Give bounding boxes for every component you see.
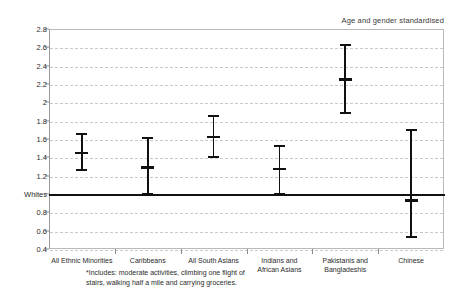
y-axis-tick-label: 2 — [43, 98, 47, 107]
error-bar-lower-cap — [406, 236, 417, 238]
x-axis-category-label: Pakistanis and Bangladeshis — [322, 256, 368, 274]
x-axis-category-label: Indians and African Asians — [257, 256, 301, 274]
gridline — [50, 177, 443, 178]
chart-title: Age and gender standardised — [342, 16, 444, 25]
gridline — [50, 48, 443, 49]
error-bar-upper-cap — [76, 133, 87, 135]
error-bar-point-marker — [405, 199, 418, 201]
gridline — [50, 232, 443, 233]
y-axis-tick-label: 0.6 — [37, 226, 47, 235]
x-axis-tick-mark — [115, 249, 116, 254]
y-axis-tick-label: 1.2 — [37, 171, 47, 180]
gridline — [50, 140, 443, 141]
y-axis-tick-label: 0.4 — [37, 245, 47, 254]
error-bar-lower-cap — [208, 156, 219, 158]
gridline — [50, 103, 443, 104]
x-axis-tick-mark — [312, 249, 313, 254]
y-axis-tick-label: 0.8 — [37, 208, 47, 217]
y-axis-tick-label: 2.2 — [37, 80, 47, 89]
whites-reference-line — [49, 194, 445, 196]
error-bar-point-marker — [75, 152, 88, 154]
error-bar-stem — [410, 130, 412, 237]
error-bar-point-marker — [273, 168, 286, 170]
x-axis-tick-mark — [378, 249, 379, 254]
gridline — [50, 158, 443, 159]
error-bar-upper-cap — [406, 129, 417, 131]
plot-area — [49, 29, 444, 249]
y-axis-tick-label: 1.6 — [37, 135, 47, 144]
y-axis-tick-label: 1.4 — [37, 153, 47, 162]
x-axis-tick-mark — [181, 249, 182, 254]
error-bar-point-marker — [141, 166, 154, 168]
y-axis-label-whites: Whites — [24, 190, 47, 199]
x-axis-category-label: Chinese — [398, 256, 424, 265]
x-axis-category-label: All South Asians — [188, 256, 239, 265]
x-axis-category-label: Caribbeans — [130, 256, 166, 265]
error-bar-upper-cap — [274, 145, 285, 147]
error-bar-point-marker — [339, 78, 352, 80]
error-bar-upper-cap — [208, 115, 219, 117]
error-bar-lower-cap — [76, 169, 87, 171]
gridline — [50, 122, 443, 123]
y-axis-tick-label: 2.8 — [37, 25, 47, 34]
x-axis-tick-mark — [247, 249, 248, 254]
y-axis-tick-label: 2.4 — [37, 61, 47, 70]
error-bar-lower-cap — [340, 112, 351, 114]
x-axis-category-label: All Ethnic Minorities — [51, 256, 112, 265]
error-bar-upper-cap — [142, 137, 153, 139]
error-bar-point-marker — [207, 136, 220, 138]
chart-container: Age and gender standardised *Includes: m… — [0, 0, 464, 295]
gridline — [50, 213, 443, 214]
y-axis-tick-label: 2.6 — [37, 43, 47, 52]
gridline — [50, 85, 443, 86]
gridline — [50, 67, 443, 68]
y-axis-tick-label: 1.8 — [37, 116, 47, 125]
error-bar-upper-cap — [340, 44, 351, 46]
